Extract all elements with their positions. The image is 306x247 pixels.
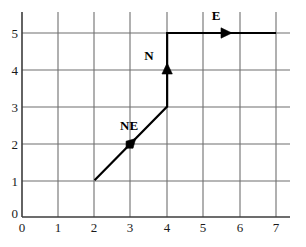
- x-tick-label-1: 1: [55, 221, 62, 234]
- arrowhead-n: [162, 63, 172, 74]
- annotation-label-ne: NE: [120, 119, 138, 132]
- grid-horizontal-lines: [22, 33, 290, 181]
- arrowhead-e: [221, 28, 232, 38]
- y-tick-label-5: 5: [12, 27, 19, 40]
- chart-axes: [22, 12, 290, 217]
- y-tick-label-3: 3: [12, 101, 19, 114]
- y-tick-label-4: 4: [12, 64, 19, 77]
- x-tick-label-0: 0: [19, 221, 26, 234]
- y-tick-label-0: 0: [12, 207, 19, 220]
- annotation-label-e: E: [212, 8, 221, 21]
- chart-plot-area: [0, 0, 306, 247]
- x-tick-label-4: 4: [164, 221, 171, 234]
- y-tick-label-1: 1: [12, 175, 19, 188]
- annotation-label-n: N: [144, 49, 153, 62]
- direction-arrowheads: [126, 28, 232, 148]
- chart-figure: 01234567 012345 NENE: [0, 0, 306, 247]
- x-tick-label-6: 6: [237, 221, 244, 234]
- x-tick-label-2: 2: [91, 221, 98, 234]
- x-tick-label-3: 3: [127, 221, 134, 234]
- arrowhead-ne: [126, 139, 136, 149]
- x-tick-label-7: 7: [273, 221, 280, 234]
- x-tick-label-5: 5: [200, 221, 207, 234]
- y-tick-label-2: 2: [12, 138, 19, 151]
